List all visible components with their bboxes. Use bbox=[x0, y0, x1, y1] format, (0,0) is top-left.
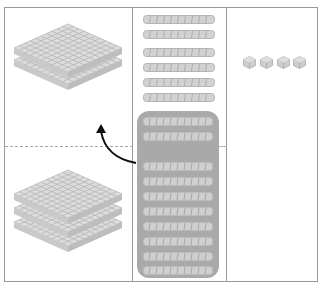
unit-cube-icon bbox=[277, 56, 290, 69]
unit-cube-icon bbox=[243, 56, 256, 69]
regroup-arrow-icon bbox=[0, 0, 322, 285]
unit-cube-icon bbox=[260, 56, 273, 69]
unit-cube-icon bbox=[293, 56, 306, 69]
